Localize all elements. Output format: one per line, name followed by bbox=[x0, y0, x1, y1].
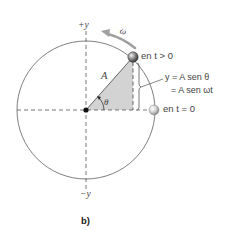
equation-line-2: = A sen ωt bbox=[171, 86, 213, 95]
omega-arrowhead-icon bbox=[101, 29, 110, 37]
panel-label: b) bbox=[81, 216, 90, 226]
center-dot bbox=[83, 107, 88, 112]
ball-right-label: en t = 0 bbox=[163, 104, 195, 114]
equation-leader-line bbox=[141, 79, 163, 87]
pos-y-axis-label: +y bbox=[78, 21, 89, 31]
ball-t-positive-icon bbox=[128, 52, 138, 62]
y-brace bbox=[137, 63, 141, 110]
ball-top-label: en t > 0 bbox=[141, 51, 173, 61]
equation-line-1: y = A sen θ bbox=[165, 73, 209, 82]
angle-label: θ bbox=[104, 98, 108, 107]
radius-label: A bbox=[101, 71, 107, 82]
ball-t-zero-icon bbox=[149, 105, 159, 115]
neg-y-axis-label: −y bbox=[80, 190, 91, 200]
